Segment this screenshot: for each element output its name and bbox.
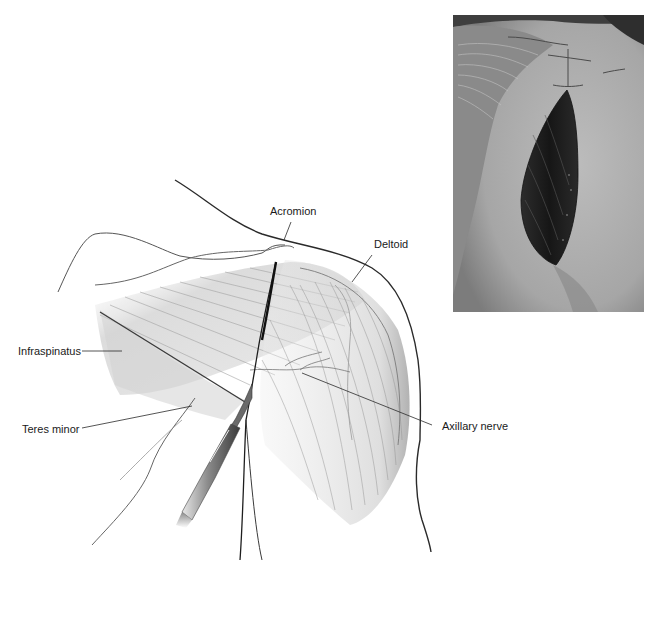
figure-caption-cropped: [180, 618, 480, 624]
label-acromion: Acromion: [270, 205, 316, 217]
label-teres-minor: Teres minor: [22, 423, 79, 435]
label-infraspinatus: Infraspinatus: [18, 345, 81, 357]
deltoid-muscle: [260, 260, 409, 525]
anatomy-figure: Acromion Deltoid Infraspinatus Teres min…: [0, 0, 656, 624]
label-deltoid: Deltoid: [374, 238, 408, 250]
clinical-photo: [453, 15, 644, 312]
acromion-leader: [284, 222, 291, 240]
label-axillary-nerve: Axillary nerve: [442, 420, 508, 432]
deltoid-leader: [352, 255, 372, 282]
